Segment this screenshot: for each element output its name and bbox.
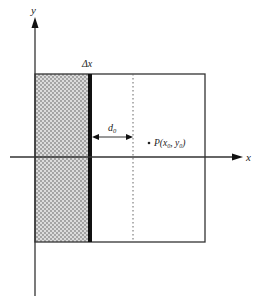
x-axis-label: x <box>245 151 251 163</box>
d0-label: d0 <box>108 122 117 134</box>
shaded-region <box>35 74 88 242</box>
delta-x-label: Δx <box>81 58 93 69</box>
x-axis-arrow-icon <box>232 154 243 161</box>
d0-left-arrow-icon <box>92 134 99 140</box>
y-axis-label: y <box>30 4 36 16</box>
y-axis-arrow-icon <box>32 17 39 28</box>
delta-x-strip <box>88 74 92 242</box>
point-p <box>148 142 151 145</box>
coordinate-diagram: y x Δx d0 P(x0, y0) <box>0 0 258 304</box>
point-p-label: P(x0, y0) <box>153 138 185 149</box>
d0-right-arrow-icon <box>126 134 133 140</box>
